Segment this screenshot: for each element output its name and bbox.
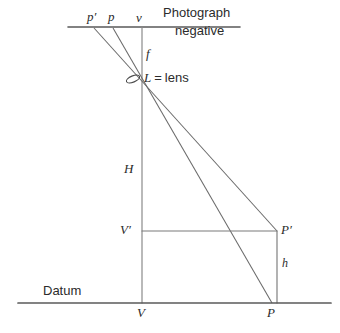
label-p-prime: p′: [87, 10, 96, 23]
label-P-prime: P′: [281, 223, 292, 236]
label-photograph: Photograph: [163, 6, 230, 19]
label-equals: =: [154, 70, 162, 85]
label-h: h: [282, 257, 288, 269]
photogrammetry-diagram: p′ p v Photograph negative f L=lens H V′…: [0, 0, 340, 333]
label-p: p: [108, 10, 115, 23]
label-lens-word: lens: [165, 70, 189, 85]
label-negative: negative: [175, 24, 224, 37]
label-v: v: [136, 11, 142, 24]
label-L: L: [144, 70, 151, 85]
ray-pprime-to-Pprime: [94, 28, 277, 231]
label-f: f: [146, 47, 150, 60]
label-P: P: [267, 306, 275, 319]
label-datum: Datum: [43, 284, 81, 297]
label-V-prime: V′: [120, 223, 131, 236]
label-V: V: [137, 306, 145, 319]
label-lens-equals-lens: L=lens: [144, 71, 189, 84]
lens-icon: [125, 74, 140, 85]
label-H: H: [124, 162, 133, 175]
ray-p-to-P: [113, 28, 272, 303]
